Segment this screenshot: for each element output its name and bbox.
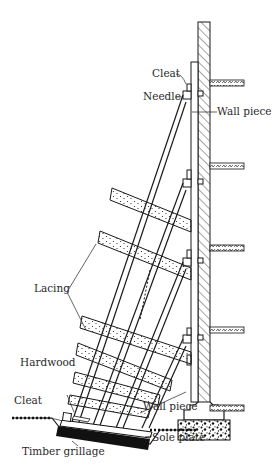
label-wall-piece-top: Wall piece — [217, 105, 272, 117]
label-cleat-top: Cleat — [152, 67, 181, 79]
label-sole-plate: Sole plate — [152, 431, 205, 443]
label-hardwood: Hardwood — [20, 356, 76, 368]
label-needle: Needle — [143, 90, 181, 102]
floor-slabs — [210, 80, 244, 411]
wall-piece — [191, 62, 198, 402]
label-wall-piece-bottom: Wall piece — [143, 400, 198, 412]
cleat-bottom — [62, 412, 71, 421]
raking-shore-diagram: Cleat Needle Wall piece Lacing Hardwood … — [0, 0, 274, 471]
label-lacing: Lacing — [34, 282, 70, 294]
label-timber-grillage: Timber grillage — [22, 445, 105, 457]
label-cleat-bottom: Cleat — [14, 394, 43, 406]
